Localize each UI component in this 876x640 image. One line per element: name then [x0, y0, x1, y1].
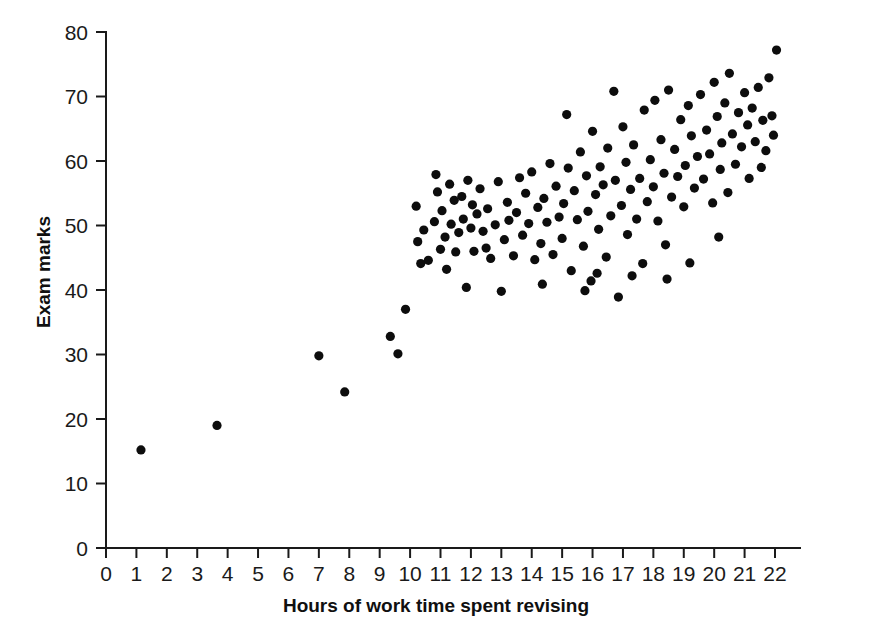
data-point	[751, 137, 760, 146]
data-point	[728, 129, 737, 138]
x-tick-label: 12	[459, 562, 482, 585]
x-axis-tick-group	[106, 548, 775, 558]
data-point	[475, 184, 484, 193]
x-tick-label: 20	[703, 562, 726, 585]
x-tick-label: 15	[550, 562, 573, 585]
data-point	[588, 127, 597, 136]
data-point	[640, 105, 649, 114]
data-point	[714, 233, 723, 242]
data-point	[659, 169, 668, 178]
x-tick-label: 3	[191, 562, 203, 585]
data-point	[696, 90, 705, 99]
data-point	[447, 220, 456, 229]
data-point	[627, 271, 636, 280]
data-point	[536, 239, 545, 248]
data-point	[466, 223, 475, 232]
data-point	[518, 231, 527, 240]
data-point	[559, 199, 568, 208]
y-axis-tick-labels: 01020304050607080	[65, 21, 88, 560]
data-point	[606, 211, 615, 220]
data-point	[650, 96, 659, 105]
data-point	[564, 163, 573, 172]
data-point	[412, 202, 421, 211]
data-point	[618, 122, 627, 131]
data-point	[758, 116, 767, 125]
data-point	[212, 421, 221, 430]
y-tick-label: 20	[65, 408, 88, 431]
data-point	[538, 280, 547, 289]
data-point	[491, 220, 500, 229]
data-point	[401, 305, 410, 314]
data-point	[769, 131, 778, 140]
x-tick-label: 4	[222, 562, 234, 585]
data-point	[748, 104, 757, 113]
data-point	[533, 203, 542, 212]
data-point	[472, 209, 481, 218]
data-point	[483, 204, 492, 213]
x-tick-label: 7	[313, 562, 325, 585]
data-point	[591, 190, 600, 199]
data-point	[594, 225, 603, 234]
data-point	[687, 131, 696, 140]
data-point	[440, 233, 449, 242]
x-tick-label: 0	[100, 562, 112, 585]
data-point	[603, 144, 612, 153]
data-point	[629, 140, 638, 149]
data-point	[702, 125, 711, 134]
data-point	[617, 201, 626, 210]
data-point	[609, 87, 618, 96]
data-point	[757, 163, 766, 172]
data-point	[684, 101, 693, 110]
data-point	[743, 120, 752, 129]
data-point	[713, 112, 722, 121]
data-point	[670, 145, 679, 154]
data-point	[582, 171, 591, 180]
data-point	[693, 152, 702, 161]
data-point	[710, 78, 719, 87]
data-point	[690, 183, 699, 192]
data-point	[393, 349, 402, 358]
data-point	[515, 173, 524, 182]
data-point	[646, 155, 655, 164]
data-point	[437, 206, 446, 215]
data-point	[314, 351, 323, 360]
y-tick-label: 80	[65, 21, 88, 44]
data-point	[653, 216, 662, 225]
data-point	[662, 274, 671, 283]
data-point	[664, 85, 673, 94]
data-point	[754, 83, 763, 92]
x-tick-label: 6	[283, 562, 295, 585]
y-tick-label: 0	[76, 537, 88, 560]
data-point	[430, 217, 439, 226]
data-point	[463, 176, 472, 185]
scatter-plot-svg: 01020304050607080 0123456789101112131415…	[0, 0, 876, 640]
data-point	[503, 198, 512, 207]
data-point	[539, 194, 548, 203]
x-tick-label: 13	[490, 562, 513, 585]
data-point	[611, 176, 620, 185]
x-tick-label: 18	[642, 562, 665, 585]
data-point	[723, 188, 732, 197]
data-point	[745, 174, 754, 183]
data-point	[545, 159, 554, 168]
data-point	[554, 213, 563, 222]
data-point	[583, 207, 592, 216]
x-tick-label: 5	[252, 562, 264, 585]
data-point	[442, 265, 451, 274]
data-point	[445, 180, 454, 189]
data-points-layer	[136, 45, 781, 454]
y-tick-label: 10	[65, 472, 88, 495]
x-tick-label: 10	[398, 562, 421, 585]
data-point	[573, 215, 582, 224]
data-point	[679, 202, 688, 211]
data-point	[494, 177, 503, 186]
x-tick-label: 8	[343, 562, 355, 585]
y-tick-label: 40	[65, 279, 88, 302]
data-point	[649, 182, 658, 191]
data-point	[699, 174, 708, 183]
data-point	[548, 250, 557, 259]
data-point	[451, 247, 460, 256]
data-point	[413, 237, 422, 246]
data-point	[433, 187, 442, 196]
y-tick-label: 30	[65, 343, 88, 366]
